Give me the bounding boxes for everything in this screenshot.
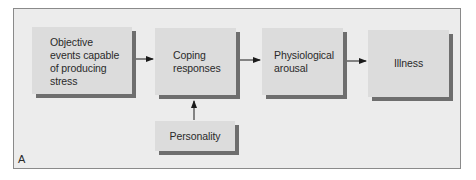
panel-label: A xyxy=(18,153,25,165)
arrows-layer xyxy=(0,0,476,180)
